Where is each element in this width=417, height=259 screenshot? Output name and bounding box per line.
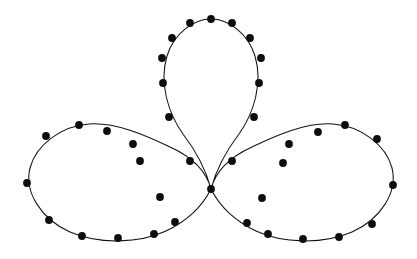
data-point-marker [78,232,86,240]
data-point-marker [257,54,265,62]
data-point-marker [258,194,266,202]
data-point-marker [207,15,215,23]
data-point-marker [285,140,293,148]
data-point-marker [250,113,258,121]
data-point-marker [171,218,179,226]
data-point-marker [103,127,111,135]
plot-background [0,0,417,259]
figure-container [0,0,417,259]
data-point-marker [341,121,349,129]
data-point-marker [246,34,254,42]
data-point-marker [299,235,307,243]
data-point-marker [243,219,251,227]
data-point-marker [158,54,166,62]
data-point-marker [228,157,236,165]
data-point-marker [335,233,343,241]
curve-plot-canvas [0,0,417,259]
data-point-marker [186,19,194,27]
data-point-marker [228,19,236,27]
data-point-marker [368,220,376,228]
data-point-marker [255,79,263,87]
data-point-marker [129,140,137,148]
data-point-marker [45,216,53,224]
data-point-marker [314,128,322,136]
data-point-marker [156,193,164,201]
data-point-marker [136,157,144,165]
data-point-marker [42,132,50,140]
data-point-marker [23,179,31,187]
data-point-marker [186,157,194,165]
data-point-marker [389,181,397,189]
data-point-marker [150,230,158,238]
data-point-marker [159,79,167,87]
data-point-marker [264,230,272,238]
data-point-marker [168,34,176,42]
data-point-marker [279,159,287,167]
data-point-marker [165,113,173,121]
data-point-marker [373,135,381,143]
data-point-marker [75,121,83,129]
data-point-marker [114,234,122,242]
data-point-marker [207,185,215,193]
